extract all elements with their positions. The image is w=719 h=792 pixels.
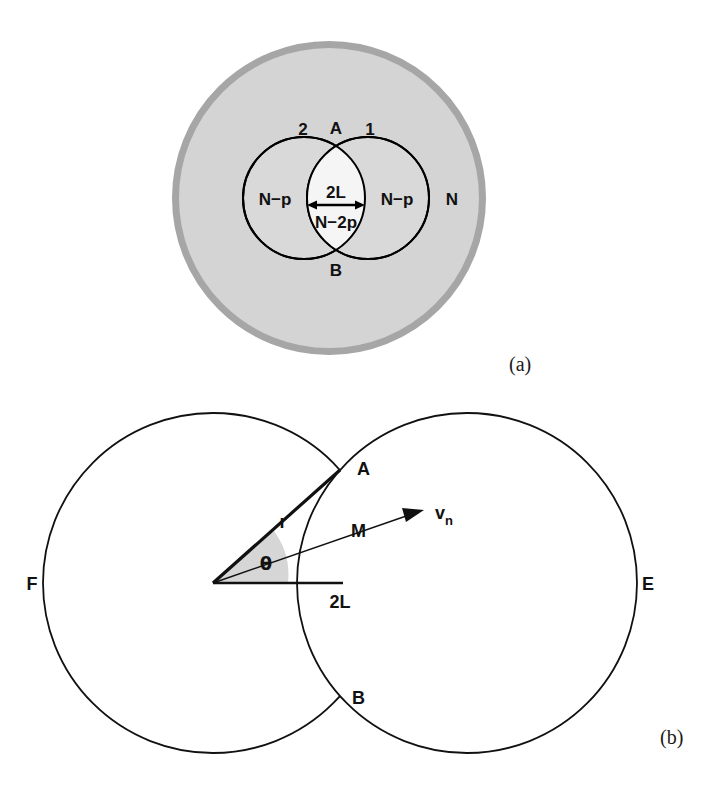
label-chord-2L: 2L: [329, 592, 350, 612]
panel-b-diagram: F E A B M r θ vn 2L: [0, 0, 719, 792]
label-point-A-b: A: [357, 459, 370, 479]
figure-root: 2 A 1 N−p N−p 2L N−2p B N (a) F E A B M: [0, 0, 719, 792]
velocity-subscript: n: [445, 513, 453, 528]
panel-b-label: (b): [660, 726, 683, 749]
circle-E: [297, 413, 637, 753]
velocity-symbol: v: [435, 503, 445, 523]
label-point-B-b: B: [352, 688, 365, 708]
label-point-M: M: [351, 521, 366, 541]
label-angle-theta: θ: [260, 553, 272, 574]
label-radius-r: r: [279, 512, 286, 532]
label-circle-E: E: [642, 574, 654, 594]
label-circle-F: F: [27, 574, 38, 594]
